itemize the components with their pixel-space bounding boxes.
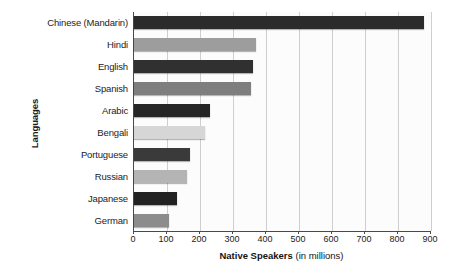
bar: [134, 214, 169, 227]
x-axis-tick-mark: [397, 231, 398, 234]
x-axis-tick-mark: [364, 231, 365, 234]
bar-series: [134, 12, 431, 231]
bar-row: [134, 56, 431, 78]
x-axis-tick-mark: [331, 231, 332, 234]
x-axis-title-bold: Native Speakers: [219, 250, 292, 261]
bar-row: [134, 12, 431, 34]
x-axis-tick-mark: [199, 231, 200, 234]
x-axis-tick-label: 400: [257, 234, 272, 244]
x-axis-tick-mark: [232, 231, 233, 234]
x-axis-tick-mark: [265, 231, 266, 234]
x-axis-tick-label: 900: [422, 234, 437, 244]
bar: [134, 192, 177, 205]
plot-area: [133, 12, 431, 231]
x-axis-tick-label: 500: [290, 234, 305, 244]
gridline: [431, 12, 432, 231]
x-axis-line: [133, 231, 431, 232]
y-axis-tick-label: Russian: [42, 165, 131, 187]
y-axis-tick-label: Japanese: [42, 187, 131, 209]
bar: [134, 82, 251, 95]
x-axis-title-light: (in millions): [293, 250, 344, 261]
x-axis-tick-label: 800: [389, 234, 404, 244]
bar-row: [134, 209, 431, 231]
bar-row: [134, 78, 431, 100]
y-axis-title: Languages: [29, 4, 40, 244]
bar-row: [134, 187, 431, 209]
y-axis-tick-label: Bengali: [42, 122, 131, 144]
y-axis-tick-label: Arabic: [42, 100, 131, 122]
x-axis-tick-mark: [430, 231, 431, 234]
bar: [134, 38, 256, 51]
x-axis-tick-label: 300: [224, 234, 239, 244]
y-axis-tick-labels: Chinese (Mandarin)HindiEnglishSpanishAra…: [42, 12, 131, 231]
bar: [134, 148, 190, 161]
x-axis-tick-label: 700: [356, 234, 371, 244]
x-axis-tick-labels: 0100200300400500600700800900: [133, 234, 430, 248]
y-axis-tick-label: Hindi: [42, 34, 131, 56]
bar: [134, 16, 424, 29]
x-axis-tick-label: 600: [323, 234, 338, 244]
x-axis-tick-mark: [166, 231, 167, 234]
bar-row: [134, 34, 431, 56]
x-axis-tick-label: 200: [191, 234, 206, 244]
bar-chart: Languages Chinese (Mandarin)HindiEnglish…: [0, 0, 462, 280]
bar-row: [134, 165, 431, 187]
x-axis-tick-label: 100: [158, 234, 173, 244]
y-axis-tick-label: English: [42, 56, 131, 78]
y-axis-tick-label: Chinese (Mandarin): [42, 12, 131, 34]
bar: [134, 170, 187, 183]
y-axis-tick-label: Portuguese: [42, 143, 131, 165]
x-axis-tick-mark: [133, 231, 134, 234]
x-axis-title: Native Speakers (in millions): [133, 250, 430, 261]
y-axis-tick-label: German: [42, 209, 131, 231]
bar-row: [134, 143, 431, 165]
bar-row: [134, 122, 431, 144]
bar: [134, 104, 210, 117]
bar: [134, 126, 205, 139]
bar: [134, 60, 253, 73]
x-axis-tick-label: 0: [130, 234, 135, 244]
bar-row: [134, 100, 431, 122]
x-axis-tick-mark: [298, 231, 299, 234]
y-axis-tick-label: Spanish: [42, 78, 131, 100]
